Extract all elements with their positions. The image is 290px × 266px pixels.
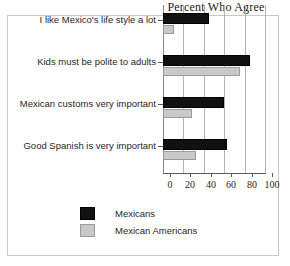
legend-label: Mexican Americans	[115, 222, 197, 239]
bar-mexican-americans[interactable]	[163, 67, 240, 76]
bar-mexican-americans[interactable]	[163, 25, 174, 34]
x-axis-tick	[252, 173, 253, 177]
x-axis-tick	[211, 173, 212, 177]
category-label: I like Mexico's life style a lot	[0, 14, 163, 26]
bar-mexicans[interactable]	[163, 13, 209, 24]
bar-chart-figure: Percent Who Agree I like Mexico's life s…	[0, 0, 290, 266]
bar-mexican-americans[interactable]	[163, 151, 196, 160]
bar-mexican-americans[interactable]	[163, 109, 192, 118]
category-label: Good Spanish is very important	[0, 140, 163, 152]
category-label: Mexican customs very important	[0, 98, 163, 110]
gray-swatch-icon	[80, 224, 95, 237]
x-axis-tick-label: 100	[257, 179, 287, 190]
x-axis-line	[163, 173, 266, 174]
black-swatch-icon	[80, 207, 95, 220]
x-axis-tick	[190, 173, 191, 177]
bar-mexicans[interactable]	[163, 139, 227, 150]
bar-mexicans[interactable]	[163, 55, 250, 66]
category-label: Kids must be polite to adults	[0, 56, 163, 68]
bar-mexicans[interactable]	[163, 97, 224, 108]
x-axis-tick	[170, 173, 171, 177]
gridline-100	[265, 5, 266, 173]
x-axis-tick	[272, 173, 273, 177]
plot-area: I like Mexico's life style a lot Kids mu…	[163, 5, 265, 173]
x-axis-tick	[231, 173, 232, 177]
legend-label: Mexicans	[115, 205, 155, 222]
gridline-80	[245, 5, 246, 173]
